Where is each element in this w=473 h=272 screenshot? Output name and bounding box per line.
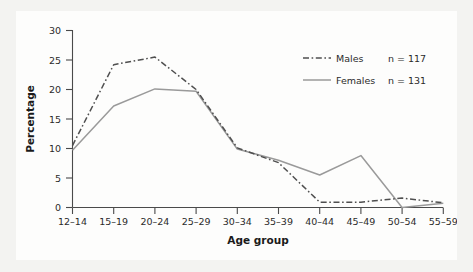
y-tick-label: 30 [49,25,61,36]
x-tick-label: 25–29 [182,216,211,227]
x-tick-label: 55–59 [429,216,457,227]
chart-panel: 0 5 10 15 20 25 30 Percentage [16,11,457,260]
line-chart: 0 5 10 15 20 25 30 Percentage [16,11,457,260]
y-tick-label: 0 [55,202,61,213]
y-tick-label: 20 [49,84,61,95]
y-tick-label: 25 [49,55,61,66]
x-tick-label: 12–14 [58,216,87,227]
y-tick-label: 10 [49,143,61,154]
x-tick-label: 45–49 [346,216,375,227]
y-tick-label: 15 [49,114,61,125]
y-axis-title: Percentage [24,85,36,153]
legend-count-males: n = 117 [388,53,426,64]
x-axis-title: Age group [227,234,289,246]
y-tick-label: 5 [55,173,61,184]
x-tick-label: 40–44 [305,216,334,227]
x-tick-label: 30–34 [223,216,252,227]
x-tick-label: 50–54 [388,216,417,227]
x-tick-label: 15–19 [99,216,128,227]
legend-label-females: Females [336,75,375,86]
legend-count-females: n = 131 [388,75,426,86]
x-tick-label: 20–24 [140,216,169,227]
legend-label-males: Males [336,53,364,64]
x-tick-label: 35–39 [264,216,293,227]
figure-page: 0 5 10 15 20 25 30 Percentage [0,0,473,272]
